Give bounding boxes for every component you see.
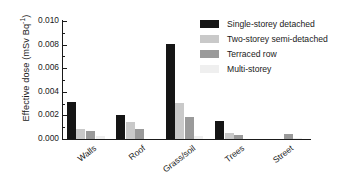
bar bbox=[225, 133, 234, 139]
y-axis-tick-label: 0.002 bbox=[0, 109, 59, 119]
bar bbox=[96, 136, 105, 139]
legend-label: Multi-storey bbox=[227, 64, 271, 74]
legend-swatch bbox=[200, 50, 219, 58]
bar bbox=[215, 121, 224, 139]
bar-chart-figure: Effective dose (mSv Bq-1) 0.0100.0080.00… bbox=[0, 0, 357, 192]
bar bbox=[194, 136, 203, 139]
bar bbox=[76, 129, 85, 139]
legend-swatch bbox=[200, 65, 219, 73]
bar bbox=[126, 122, 135, 139]
y-axis-major-tick bbox=[63, 139, 67, 140]
y-axis-tick-label: 0.000 bbox=[0, 133, 59, 143]
y-axis-tick-labels: 0.0100.0080.0060.0040.0020.000 bbox=[0, 0, 59, 192]
bar bbox=[175, 103, 184, 139]
legend-swatch bbox=[200, 35, 219, 43]
legend-label: Single-storey detached bbox=[227, 19, 315, 29]
legend-item: Single-storey detached bbox=[200, 16, 328, 31]
bar bbox=[234, 135, 243, 139]
bar bbox=[135, 129, 144, 139]
y-axis-tick-label: 0.010 bbox=[0, 15, 59, 25]
x-axis-tick-label: Trees bbox=[204, 143, 246, 179]
legend-item: Two-storey semi-detached bbox=[200, 31, 328, 46]
bar bbox=[185, 117, 194, 139]
bar bbox=[67, 102, 76, 139]
legend-item: Multi-storey bbox=[200, 61, 328, 76]
bar-group bbox=[116, 21, 154, 139]
y-axis-tick-label: 0.004 bbox=[0, 86, 59, 96]
y-axis-tick-label: 0.006 bbox=[0, 62, 59, 72]
x-axis-tick-label: Roof bbox=[105, 143, 147, 179]
bar bbox=[293, 138, 302, 139]
chart-legend: Single-storey detachedTwo-storey semi-de… bbox=[200, 16, 328, 76]
x-axis-tick-label: Grass/soil bbox=[154, 143, 196, 179]
legend-label: Terraced row bbox=[227, 49, 277, 59]
legend-swatch bbox=[200, 20, 219, 28]
bar-group bbox=[166, 21, 204, 139]
y-axis-tick-label: 0.008 bbox=[0, 39, 59, 49]
bar bbox=[284, 134, 293, 139]
bar bbox=[86, 131, 95, 139]
legend-item: Terraced row bbox=[200, 46, 328, 61]
legend-label: Two-storey semi-detached bbox=[227, 34, 328, 44]
bar bbox=[116, 115, 125, 139]
x-axis-tick-label: Walls bbox=[55, 143, 97, 179]
bar-group bbox=[67, 21, 105, 139]
bar bbox=[166, 44, 175, 139]
x-axis-spine bbox=[62, 139, 311, 140]
x-axis-tick-label: Street bbox=[253, 143, 295, 179]
